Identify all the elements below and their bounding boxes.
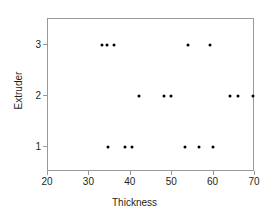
x-axis-tick	[213, 171, 214, 175]
data-point	[113, 43, 116, 46]
data-point	[105, 43, 108, 46]
x-axis-tick-label: 70	[248, 176, 259, 187]
plot-area	[47, 18, 254, 171]
x-axis-tick-label: 20	[41, 176, 52, 187]
data-point	[184, 145, 187, 148]
data-point	[251, 94, 254, 97]
x-axis-tick-label: 50	[166, 176, 177, 187]
data-point	[169, 94, 172, 97]
data-point	[138, 94, 141, 97]
x-axis-tick	[130, 171, 131, 175]
data-point	[187, 43, 190, 46]
data-point	[124, 145, 127, 148]
y-axis-tick	[43, 44, 47, 45]
y-axis-tick-label: 2	[30, 89, 41, 100]
data-point	[212, 145, 215, 148]
x-axis-tick-label: 30	[83, 176, 94, 187]
x-axis-tick	[254, 171, 255, 175]
x-axis-tick-label: 60	[207, 176, 218, 187]
data-point	[229, 94, 232, 97]
x-axis-tick	[88, 171, 89, 175]
data-point	[100, 43, 103, 46]
y-axis-title: Extruder	[13, 51, 24, 131]
y-axis-tick	[43, 146, 47, 147]
y-axis-tick-label: 3	[30, 38, 41, 49]
x-axis-tick-label: 40	[124, 176, 135, 187]
x-axis-tick	[47, 171, 48, 175]
data-point	[237, 94, 240, 97]
x-axis-tick	[171, 171, 172, 175]
y-axis-tick	[43, 95, 47, 96]
data-point	[131, 145, 134, 148]
data-point	[198, 145, 201, 148]
data-point	[107, 145, 110, 148]
data-point	[209, 43, 212, 46]
scatter-plot-figure: 203040506070 123 Thickness Extruder	[0, 0, 269, 222]
data-point	[162, 94, 165, 97]
x-axis-title: Thickness	[0, 197, 269, 208]
y-axis-tick-label: 1	[30, 140, 41, 151]
